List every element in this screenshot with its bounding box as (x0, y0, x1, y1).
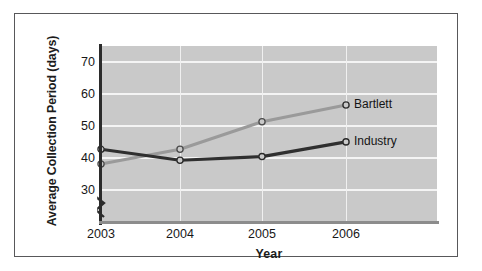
data-point-bartlett-2006 (343, 102, 349, 108)
x-tick-2005: 2005 (232, 227, 292, 241)
y-tick-40: 40 (63, 151, 95, 165)
y-tick-50: 50 (63, 119, 95, 133)
chart-frame: Average Collection Period (days) 70 60 5… (14, 13, 458, 257)
x-tick-2006: 2006 (316, 227, 376, 241)
y-tick-70: 70 (63, 55, 95, 69)
data-point-bartlett-2004 (177, 146, 183, 152)
x-axis-title: Year (101, 247, 437, 261)
y-tick-60: 60 (63, 87, 95, 101)
x-axis-line (99, 221, 439, 224)
plot-area: Bartlett Industry (101, 46, 437, 223)
data-point-industry-2004 (177, 157, 183, 163)
data-point-bartlett-2005 (259, 119, 265, 125)
data-point-industry-2006 (343, 139, 349, 145)
chart-figure: Average Collection Period (days) 70 60 5… (0, 0, 482, 271)
data-point-industry-2005 (259, 154, 265, 160)
y-axis-title: Average Collection Period (days) (45, 31, 59, 231)
x-axis-tick-labels: 2003 2004 2005 2006 (101, 227, 437, 245)
x-tick-2004: 2004 (150, 227, 210, 241)
x-tick-2003: 2003 (71, 227, 131, 241)
series-label-industry: Industry (354, 134, 397, 148)
axis-break-icon (93, 196, 109, 220)
y-axis-tick-labels: 70 60 50 40 30 (59, 46, 95, 223)
series-label-bartlett: Bartlett (354, 97, 392, 111)
y-tick-30: 30 (63, 183, 95, 197)
